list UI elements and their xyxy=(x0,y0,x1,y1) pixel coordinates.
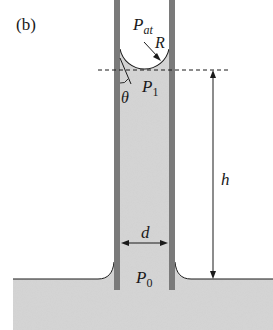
label-radius: R xyxy=(154,34,165,51)
height-arrowhead-down-icon xyxy=(210,271,216,279)
height-arrowhead-up-icon xyxy=(210,70,216,78)
label-p-at: Pat xyxy=(132,15,153,37)
tube-wall-left xyxy=(114,0,120,290)
tube-wall-right xyxy=(169,0,175,290)
label-height: h xyxy=(221,170,230,189)
label-diameter: d xyxy=(141,223,150,242)
capillary-rise-diagram: (b) Pat R P1 θ h d P0 xyxy=(0,0,273,330)
label-theta: θ xyxy=(121,89,129,106)
radius-arrowhead-icon xyxy=(153,53,161,61)
panel-label: (b) xyxy=(16,15,36,34)
